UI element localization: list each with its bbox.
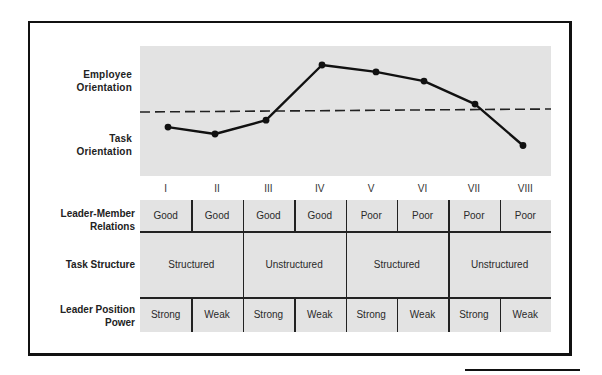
octant-label: I [141,183,191,194]
grid-divider [448,200,450,231]
y-label-line: Task [76,132,132,145]
grid-cell: Weak [397,297,448,332]
data-point [520,142,527,149]
situation-grid: GoodGoodGoodGoodPoorPoorPoorPoorStructur… [140,200,551,332]
grid-cell: Strong [448,297,499,332]
data-point [212,131,219,138]
grid-divider [294,297,296,332]
grid-divider [294,200,296,231]
octant-label: II [192,183,242,194]
grid-cell: Strong [243,297,294,332]
grid-divider [191,297,193,332]
grid-cell: Unstructured [243,231,346,297]
grid-divider [243,200,245,231]
row-label-task-structure: Task Structure [10,258,135,271]
octant-label: V [346,183,396,194]
grid-cell: Unstructured [448,231,551,297]
y-label-employee-orientation: Employee Orientation [76,68,132,94]
grid-divider [346,297,348,332]
row-label-leader-member-relations: Leader-Member Relations [10,207,135,233]
grid-divider [346,200,348,231]
midpoint-dashed-line [140,109,551,112]
grid-cell: Good [294,200,345,231]
data-point [421,78,428,85]
grid-divider [346,231,348,297]
grid-cell: Poor [448,200,499,231]
octant-label: III [243,183,293,194]
grid-cell: Strong [140,297,191,332]
grid-cell: Good [191,200,242,231]
grid-cell: Weak [294,297,345,332]
row-label-line: Relations [10,220,135,233]
grid-cell: Poor [397,200,448,231]
y-label-line: Employee [76,68,132,81]
grid-cell: Weak [191,297,242,332]
data-point [373,69,380,76]
octant-label: VI [398,183,448,194]
grid-cell: Poor [346,200,397,231]
data-point [472,101,479,108]
octant-label: VII [449,183,499,194]
row-label-line: Leader Position [10,303,135,316]
footer-rule [465,369,580,371]
y-label-task-orientation: Task Orientation [76,132,132,158]
grid-divider [500,200,502,231]
data-point [165,124,172,131]
grid-divider [243,297,245,332]
row-label-line: Task Structure [10,258,135,271]
row-label-leader-position-power: Leader Position Power [10,303,135,329]
grid-cell: Weak [500,297,551,332]
grid-cell: Structured [140,231,243,297]
y-label-line: Orientation [76,81,132,94]
orientation-data-points [165,62,527,149]
grid-divider [397,200,399,231]
grid-cell: Poor [500,200,551,231]
octant-label: VIII [500,183,550,194]
grid-divider [243,231,245,297]
data-point [263,117,270,124]
grid-divider [448,297,450,332]
grid-cell: Good [243,200,294,231]
orientation-series-line [168,65,523,146]
grid-row-divider [140,231,551,233]
octant-label: IV [295,183,345,194]
grid-cell: Structured [346,231,449,297]
y-label-line: Orientation [76,145,132,158]
row-label-line: Leader-Member [10,207,135,220]
data-point [319,62,326,69]
grid-cell: Good [140,200,191,231]
row-label-line: Power [10,316,135,329]
grid-divider [191,200,193,231]
grid-row-divider [140,297,551,299]
grid-cell: Strong [346,297,397,332]
grid-divider [448,231,450,297]
grid-divider [397,297,399,332]
grid-divider [500,297,502,332]
